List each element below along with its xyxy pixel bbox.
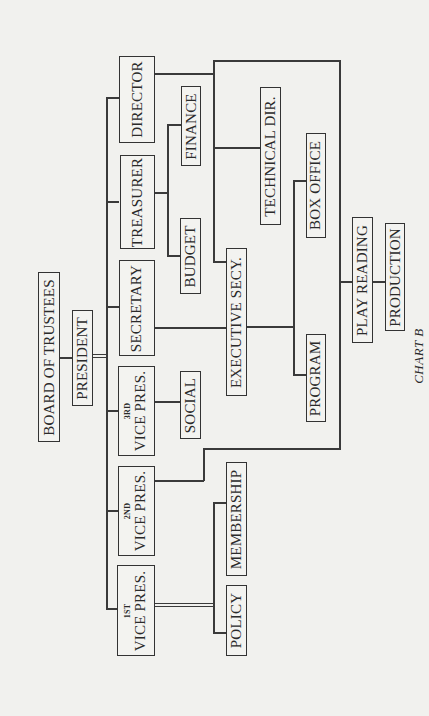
connector-techdir (213, 147, 260, 149)
connector-director-top (213, 60, 340, 62)
node-label: MEMBERSHIP (229, 469, 244, 569)
connector-exec-out (247, 326, 293, 328)
connector-director-exec (213, 261, 226, 263)
node-label: PRESIDENT (75, 317, 90, 400)
node-label: FINANCE (184, 93, 199, 159)
node-policy: POLICY (226, 585, 247, 656)
connector-director-out (155, 73, 213, 75)
connector-budget (167, 255, 181, 257)
connector-exec-bracket (293, 180, 295, 375)
connector-boxoffice (293, 180, 306, 182)
node-label: TREASURER (130, 157, 145, 246)
node-production: PRODUCTION (385, 223, 405, 331)
connector-vp2-out (155, 480, 204, 482)
node-label: SOCIAL (183, 377, 198, 432)
node-social: SOCIAL (180, 371, 201, 439)
node-label: PRODUCTION (388, 228, 403, 327)
node-label: BUDGET (183, 225, 198, 287)
node-technical-dir: TECHNICAL DIR. (260, 87, 281, 225)
node-label: BOX OFFICE (309, 141, 324, 230)
connector-vp1-out-a (155, 603, 213, 604)
node-secretary: SECRETARY (119, 260, 155, 356)
connector-bus-director (106, 97, 119, 99)
node-membership: MEMBERSHIP (226, 462, 247, 576)
node-label: VICE PRES. (134, 471, 149, 551)
node-label: DIRECTOR (130, 61, 145, 137)
node-label: TECHNICAL DIR. (263, 96, 278, 217)
node-vice-pres-1st: 1STVICE PRES. (117, 565, 155, 656)
connector-bus-treasurer (106, 201, 119, 203)
node-label: EXECUTIVE SECY. (229, 256, 244, 387)
node-budget: BUDGET (180, 218, 201, 294)
connector-vp2-across (203, 448, 341, 450)
node-box-office: BOX OFFICE (306, 133, 326, 238)
node-president: PRESIDENT (72, 310, 93, 406)
node-vice-pres-3rd: 3RDVICE PRES. (118, 366, 155, 456)
node-ordinal: 1ST (124, 603, 132, 618)
connector-right-vertical (339, 60, 341, 450)
node-label: VICE PRES. (134, 371, 149, 451)
connector-board-president (60, 357, 72, 359)
node-treasurer: TREASURER (120, 155, 155, 249)
connector-vp1-bracket (213, 502, 215, 633)
node-vice-pres-2nd: 2NDVICE PRES. (118, 466, 155, 556)
node-board-of-trustees: BOARD OF TRUSTEES (38, 272, 60, 442)
node-play-reading: PLAY READING (352, 217, 373, 343)
connector-officer-bus (106, 97, 108, 609)
connector-president-bus-a (93, 354, 106, 355)
connector-president-bus-b (93, 357, 106, 358)
connector-director-bracket (213, 60, 215, 262)
node-director: DIRECTOR (119, 56, 155, 143)
connector-playreading (339, 281, 352, 283)
connector-program (293, 374, 306, 376)
connector-vp1-out-b (155, 606, 213, 607)
connector-treasurer-sub (155, 192, 167, 194)
connector-production (372, 281, 385, 283)
node-label: SECRETARY (130, 264, 145, 351)
connector-treasurer-bracket (167, 124, 169, 256)
node-label: PLAY READING (355, 225, 370, 336)
node-label: PROGRAM (309, 340, 324, 416)
node-program: PROGRAM (306, 334, 326, 422)
node-label: BOARD OF TRUSTEES (42, 279, 57, 435)
chart-caption: CHART B (410, 320, 428, 392)
connector-bus-secretary (106, 306, 119, 308)
node-executive-secy: EXECUTIVE SECY. (226, 248, 247, 396)
connector-policy (213, 632, 226, 634)
connector-membership (213, 502, 226, 504)
connector-secretary-exec (155, 327, 226, 329)
node-finance: FINANCE (181, 86, 201, 166)
node-label: VICE PRES. (133, 570, 148, 650)
connector-finance (167, 124, 181, 126)
node-label: POLICY (229, 593, 244, 648)
connector-vp2-up (203, 448, 205, 481)
caption-text: CHART B (411, 328, 427, 384)
connector-social (155, 401, 180, 403)
